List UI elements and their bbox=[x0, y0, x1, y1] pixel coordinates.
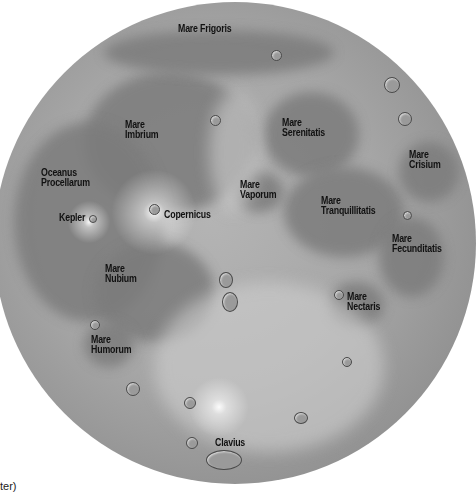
crater bbox=[384, 77, 400, 93]
crater bbox=[90, 320, 100, 330]
crater bbox=[334, 290, 344, 300]
label-copernicus: Copernicus bbox=[164, 210, 211, 220]
caption-fragment: ter) bbox=[0, 480, 17, 492]
crater bbox=[210, 115, 221, 126]
tycho-rays bbox=[184, 372, 254, 442]
crater bbox=[222, 292, 238, 312]
label-kepler: Kepler bbox=[59, 213, 85, 223]
crater bbox=[184, 397, 196, 409]
label-mare-vaporum: MareVaporum bbox=[240, 180, 276, 200]
label-mare-nectaris: MareNectaris bbox=[347, 292, 380, 312]
label-clavius: Clavius bbox=[215, 438, 245, 448]
crater bbox=[403, 211, 412, 220]
mare-fecunditatis-region bbox=[379, 217, 444, 297]
kepler-crater bbox=[89, 215, 97, 223]
crater bbox=[398, 112, 412, 126]
copernicus-crater bbox=[149, 204, 160, 215]
crater bbox=[126, 382, 140, 396]
label-mare-serenitatis: MareSerenitatis bbox=[282, 118, 325, 138]
label-mare-tranquillitatis: MareTranquillitatis bbox=[321, 196, 376, 216]
label-mare-frigoris: Mare Frigoris bbox=[178, 24, 231, 34]
crater bbox=[186, 437, 198, 449]
crater bbox=[219, 272, 233, 288]
mare-frigoris-region bbox=[104, 30, 334, 75]
label-mare-fecunditatis: MareFecunditatis bbox=[392, 234, 442, 254]
crater bbox=[294, 412, 308, 424]
crater bbox=[271, 50, 282, 61]
label-oceanus-procellarum: OceanusProcellarum bbox=[41, 168, 90, 188]
crater bbox=[342, 357, 352, 367]
clavius-crater bbox=[206, 450, 242, 470]
label-mare-crisium: MareCrisium bbox=[409, 150, 441, 170]
label-mare-nubium: MareNubium bbox=[105, 264, 137, 284]
label-mare-imbrium: MareImbrium bbox=[125, 120, 158, 140]
label-mare-humorum: MareHumorum bbox=[91, 335, 131, 355]
